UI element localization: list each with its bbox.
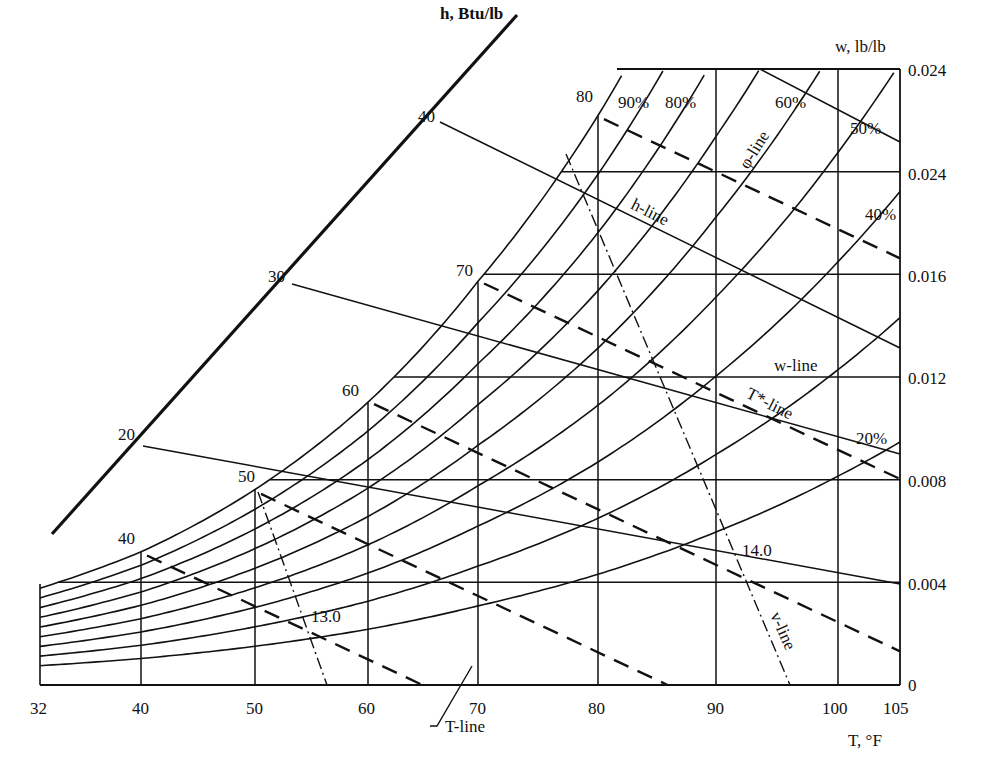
specific-volume-lines [258,154,790,685]
y-tick-labels: 0 0.004 0.008 0.012 0.016 0.024 0.024 [908,61,947,695]
svg-text:0: 0 [908,676,917,695]
svg-text:0.008: 0.008 [908,472,946,491]
w-line-annotation: w-line [774,356,817,375]
svg-text:20: 20 [118,425,135,444]
volume-label-13: 13.0 [311,607,341,626]
svg-text:40%: 40% [865,205,896,224]
svg-text:60%: 60% [775,93,806,112]
humidity-axis-title: w, lb/lb [835,37,886,56]
svg-text:80%: 80% [665,93,696,112]
svg-text:50: 50 [238,467,255,486]
svg-text:0.016: 0.016 [908,267,946,286]
x-tick-labels: 32 40 50 60 70 80 90 100 105 [30,699,909,718]
svg-text:80: 80 [576,87,593,106]
svg-text:90%: 90% [618,93,649,112]
enthalpy-lines [143,69,900,584]
volume-label-14: 14.0 [742,541,772,560]
svg-text:32: 32 [30,699,47,718]
svg-text:100: 100 [822,699,848,718]
psychrometric-chart: h, Btu/lb w, lb/lb T, °F 32 40 50 60 70 … [0,0,991,767]
svg-text:30: 30 [268,267,285,286]
svg-text:105: 105 [883,699,909,718]
svg-text:50: 50 [246,699,263,718]
h-line-annotation: h-line [628,195,672,230]
rh-curves [40,71,900,666]
svg-text:40: 40 [418,107,435,126]
svg-text:40: 40 [132,699,149,718]
temperature-axis-title: T, °F [848,731,882,750]
svg-text:20%: 20% [856,429,887,448]
svg-text:80: 80 [588,699,605,718]
v-line-annotation: v-line [766,609,799,653]
enthalpy-axis-title: h, Btu/lb [440,4,503,23]
t-line-annotation: T-line [445,717,485,736]
svg-text:0.024: 0.024 [908,165,947,184]
saturation-temp-labels: 40 50 60 70 80 [118,87,593,548]
svg-text:50%: 50% [850,119,881,138]
svg-text:0.012: 0.012 [908,369,946,388]
svg-text:70: 70 [456,261,473,280]
svg-text:40: 40 [118,529,135,548]
svg-text:0.024: 0.024 [908,61,947,80]
svg-text:60: 60 [342,381,359,400]
svg-text:60: 60 [358,699,375,718]
svg-text:90: 90 [707,699,724,718]
svg-text:70: 70 [469,699,486,718]
svg-text:0.004: 0.004 [908,575,947,594]
